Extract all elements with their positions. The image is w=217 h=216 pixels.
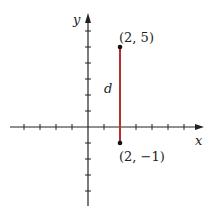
point-bottom [118,141,123,146]
segment-label-d: d [104,81,112,96]
x-axis: x [10,124,204,148]
x-axis-label: x [195,133,203,148]
x-axis-arrow-icon [195,124,204,130]
point-bottom-label: (2, −1) [119,149,165,164]
point-top-label: (2, 5) [119,30,154,45]
coordinate-plane-figure: x y d (2, 5) (2, −1) [0,0,217,216]
point-top [118,45,123,50]
y-axis: y [72,12,91,206]
y-axis-label: y [72,12,81,27]
y-axis-arrow-icon [85,13,91,23]
